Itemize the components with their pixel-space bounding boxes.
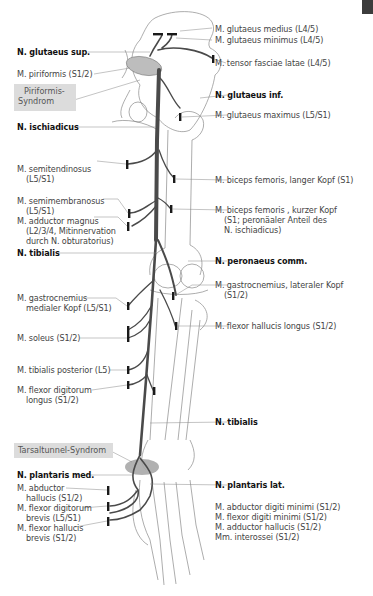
adductor-magnus-line2: (L2/3/4, Mitinnervation (17, 226, 116, 236)
label-m-glutaeus-minimus: M. glutaeus minimus (L4/5) (215, 35, 323, 45)
label-m-glutaeus-medius: M. glutaeus medius (L4/5) (215, 24, 318, 34)
adductor-magnus-line1: M. adductor magnus (17, 216, 99, 226)
motor-endplates (107, 33, 214, 526)
label-m-flexor-digitorum-brevis: M. flexor digitorum brevis (L5/S1) (17, 503, 92, 523)
label-n-plantaris-lat: N. plantaris lat. (215, 480, 285, 490)
piriformis-syndrom-line2: Syndrom (18, 96, 72, 106)
lat-muscle-item: M. flexor digiti minimi (S1/2) (215, 512, 340, 522)
biceps-short-line2: (S1; peronäaler Anteil des (215, 215, 337, 225)
label-m-tensor-fasciae-latae: M. tensor fasciae latae (L4/5) (215, 58, 330, 68)
abductor-hallucis-line2: hallucis (S1/2) (17, 493, 82, 503)
flexor-hallucis-brevis-line2: brevis (S1/2) (17, 533, 83, 543)
biceps-short-line1: M. biceps femoris , kurzer Kopf (215, 205, 337, 215)
label-m-flexor-hallucis-longus: M. flexor hallucis longus (S1/2) (215, 321, 336, 331)
label-m-biceps-femoris-long: M. biceps femoris, langer Kopf (S1) (215, 175, 353, 185)
label-m-adductor-magnus: M. adductor magnus (L2/3/4, Mitinnervati… (17, 216, 116, 246)
label-m-abductor-hallucis: M. abductor hallucis (S1/2) (17, 483, 82, 503)
label-n-tibialis-bottom: N. tibialis (215, 417, 258, 427)
label-n-tibialis-top: N. tibialis (17, 248, 60, 258)
piriformis-syndrom-line1: Piriformis- (18, 86, 72, 96)
adductor-magnus-line3: durch N. obturatorius) (17, 236, 116, 246)
label-m-tibialis-posterior: M. tibialis posterior (L5) (17, 365, 110, 375)
biceps-short-line3: N. ischiadicus) (215, 225, 337, 235)
gastrocnemius-lat-line2: (S1/2) (215, 290, 343, 300)
lat-muscle-item: M. abductor digiti minimi (S1/2) (215, 502, 340, 512)
label-n-glutaeus-sup: N. glutaeus sup. (17, 47, 90, 57)
label-m-gastrocnemius-lat: M. gastrocnemius, lateraler Kopf (S1/2) (215, 280, 343, 300)
gastrocnemius-med-line2: medialer Kopf (L5/S1) (17, 303, 112, 313)
lat-muscle-item: M. adductor hallucis (S1/2) (215, 522, 340, 532)
label-m-flexor-hallucis-brevis: M. flexor hallucis brevis (S1/2) (17, 523, 83, 543)
lat-muscle-item: Mm. interossei (S1/2) (215, 532, 340, 542)
gastrocnemius-lat-line1: M. gastrocnemius, lateraler Kopf (215, 280, 343, 290)
nerves (110, 34, 212, 520)
label-n-glutaeus-inf: N. glutaeus inf. (215, 90, 283, 100)
gastrocnemius-med-line1: M. gastrocnemius (17, 293, 87, 303)
label-m-flexor-digitorum-longus: M. flexor digitorum longus (S1/2) (17, 385, 92, 405)
abductor-hallucis-line1: M. abductor (17, 483, 64, 493)
lateral-plantar-muscle-list: M. abductor digiti minimi (S1/2) M. flex… (215, 502, 340, 542)
label-m-piriformis: M. piriformis (S1/2) (17, 69, 92, 79)
label-m-glutaeus-maximus: M. glutaeus maximus (L5/S1) (215, 110, 331, 120)
flexor-digitorum-brevis-line2: brevis (L5/S1) (17, 513, 92, 523)
label-m-semimembranosus: M. semimembranosus (L5/S1) (17, 196, 104, 216)
flexor-digitorum-brevis-line1: M. flexor digitorum (17, 503, 92, 513)
label-n-ischiadicus: N. ischiadicus (17, 122, 79, 132)
flexor-digitorum-longus-line1: M. flexor digitorum (17, 385, 92, 395)
label-m-soleus: M. soleus (S1/2) (17, 333, 80, 343)
label-m-biceps-femoris-short: M. biceps femoris , kurzer Kopf (S1; per… (215, 205, 337, 235)
semimembranosus-line2: (L5/S1) (17, 206, 104, 216)
label-m-semitendinosus: M. semitendinosus (L5/S1) (17, 164, 91, 184)
flexor-hallucis-brevis-line1: M. flexor hallucis (17, 523, 83, 533)
semimembranosus-line1: M. semimembranosus (17, 196, 104, 206)
tarsaltunnel-syndrom-label: Tarsaltunnel-Syndrom (18, 445, 106, 455)
label-n-peronaeus-comm: N. peronaeus comm. (215, 256, 307, 266)
label-m-gastrocnemius-med: M. gastrocnemius medialer Kopf (L5/S1) (17, 293, 112, 313)
label-n-plantaris-med: N. plantaris med. (17, 470, 94, 480)
semitendinosus-line2: (L5/S1) (17, 174, 91, 184)
tarsaltunnel-syndrom-box: Tarsaltunnel-Syndrom (14, 443, 113, 458)
flexor-digitorum-longus-line2: longus (S1/2) (17, 395, 92, 405)
piriformis-syndrom-box: Piriformis- Syndrom (14, 84, 76, 111)
semitendinosus-line1: M. semitendinosus (17, 164, 91, 174)
